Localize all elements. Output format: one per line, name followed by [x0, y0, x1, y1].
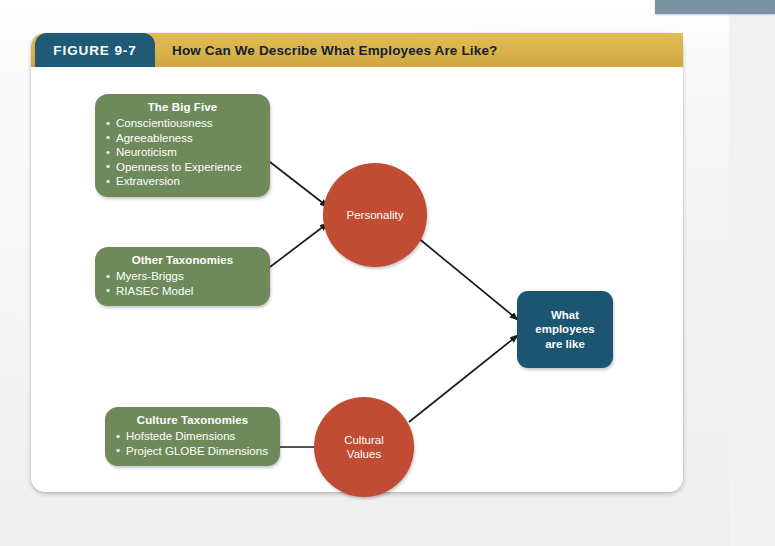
- node-outcome-line2: employees: [535, 323, 594, 335]
- node-cultural-values: Cultural Values: [314, 397, 414, 497]
- connector-othertax-personality: [270, 223, 328, 267]
- figure-title: How Can We Describe What Employees Are L…: [172, 33, 497, 67]
- connector-culturalvalues-outcome: [409, 335, 518, 422]
- connector-personality-outcome: [417, 237, 518, 320]
- node-cultural-values-label: Cultural Values: [344, 433, 384, 461]
- page-edge-tab: [655, 0, 775, 14]
- connector-bigfive-personality: [270, 162, 328, 207]
- list-item: RIASEC Model: [105, 284, 260, 299]
- node-other-taxonomies-list: Myers-Briggs RIASEC Model: [105, 269, 260, 298]
- node-culture-taxonomies-title: Culture Taxonomies: [115, 414, 270, 426]
- node-big-five: The Big Five Conscientiousness Agreeable…: [95, 94, 270, 197]
- figure-number-tab: FIGURE 9-7: [35, 33, 155, 67]
- node-personality-label: Personality: [347, 208, 404, 222]
- node-culture-taxonomies: Culture Taxonomies Hofstede Dimensions P…: [105, 407, 280, 466]
- list-item: Agreeableness: [105, 131, 260, 146]
- node-big-five-title: The Big Five: [105, 101, 260, 113]
- list-item: Extraversion: [105, 174, 260, 189]
- node-cultural-values-line2: Values: [347, 448, 381, 460]
- list-item: Hofstede Dimensions: [115, 429, 270, 444]
- figure-number-label: FIGURE 9-7: [53, 43, 136, 58]
- list-item: Myers-Briggs: [105, 269, 260, 284]
- node-big-five-list: Conscientiousness Agreeableness Neurotic…: [105, 116, 260, 189]
- node-outcome-label: What employees are like: [535, 308, 594, 352]
- node-outcome-line1: What: [551, 309, 579, 321]
- node-culture-taxonomies-list: Hofstede Dimensions Project GLOBE Dimens…: [115, 429, 270, 458]
- node-cultural-values-line1: Cultural: [344, 434, 384, 446]
- node-what-employees-are-like: What employees are like: [517, 291, 613, 368]
- list-item: Neuroticism: [105, 145, 260, 160]
- list-item: Conscientiousness: [105, 116, 260, 131]
- diagram-canvas: The Big Five Conscientiousness Agreeable…: [31, 67, 683, 492]
- list-item: Project GLOBE Dimensions: [115, 444, 270, 459]
- list-item: Openness to Experience: [105, 160, 260, 175]
- node-other-taxonomies: Other Taxonomies Myers-Briggs RIASEC Mod…: [95, 247, 270, 306]
- node-personality: Personality: [323, 163, 427, 267]
- node-outcome-line3: are like: [545, 338, 585, 350]
- node-other-taxonomies-title: Other Taxonomies: [105, 254, 260, 266]
